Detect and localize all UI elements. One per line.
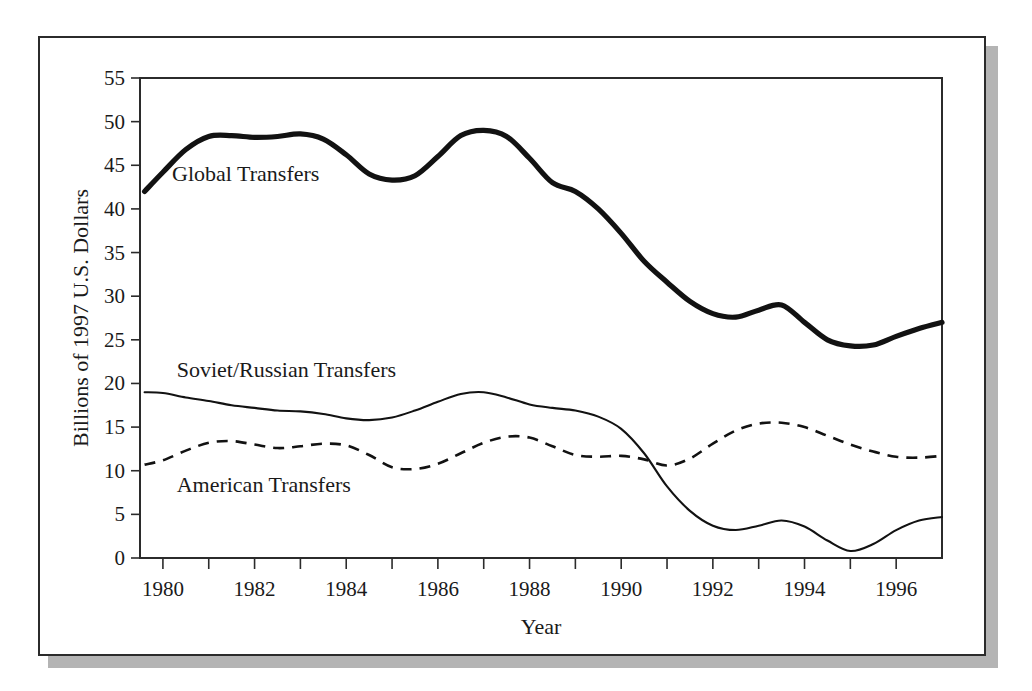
series-label-global-transfers: Global Transfers xyxy=(172,161,319,186)
x-axis-tick-label: 1990 xyxy=(600,577,642,601)
y-axis-tick-label: 15 xyxy=(104,415,125,439)
x-axis-tick-label: 1984 xyxy=(325,577,368,601)
line-chart: 0510152025303540455055198019821984198619… xyxy=(0,0,1032,691)
x-axis-tick-label: 1986 xyxy=(417,577,459,601)
y-axis-tick-label: 40 xyxy=(104,197,125,221)
x-axis-tick-label: 1992 xyxy=(692,577,734,601)
series-label-american-transfers: American Transfers xyxy=(177,472,351,497)
series-line-american-transfers xyxy=(145,422,942,469)
y-axis-tick-label: 0 xyxy=(115,546,126,570)
x-axis-title: Year xyxy=(521,614,562,639)
y-axis-tick-label: 35 xyxy=(104,241,125,265)
y-axis-tick-label: 10 xyxy=(104,459,125,483)
y-axis-tick-label: 50 xyxy=(104,110,125,134)
x-axis-tick-label: 1982 xyxy=(234,577,276,601)
y-axis-tick-label: 5 xyxy=(115,502,126,526)
series-label-soviet-russian-transfers: Soviet/Russian Transfers xyxy=(177,357,396,382)
x-axis-tick-label: 1994 xyxy=(784,577,827,601)
y-axis-title: Billions of 1997 U.S. Dollars xyxy=(68,189,93,447)
y-axis-tick-label: 45 xyxy=(104,153,125,177)
x-axis-tick-label: 1980 xyxy=(142,577,184,601)
x-axis-tick-label: 1996 xyxy=(875,577,917,601)
figure-root: 0510152025303540455055198019821984198619… xyxy=(0,0,1032,691)
y-axis-tick-label: 25 xyxy=(104,328,125,352)
y-axis-tick-label: 30 xyxy=(104,284,125,308)
x-axis-tick-label: 1988 xyxy=(509,577,551,601)
y-axis-tick-label: 55 xyxy=(104,66,125,90)
y-axis-tick-label: 20 xyxy=(104,371,125,395)
